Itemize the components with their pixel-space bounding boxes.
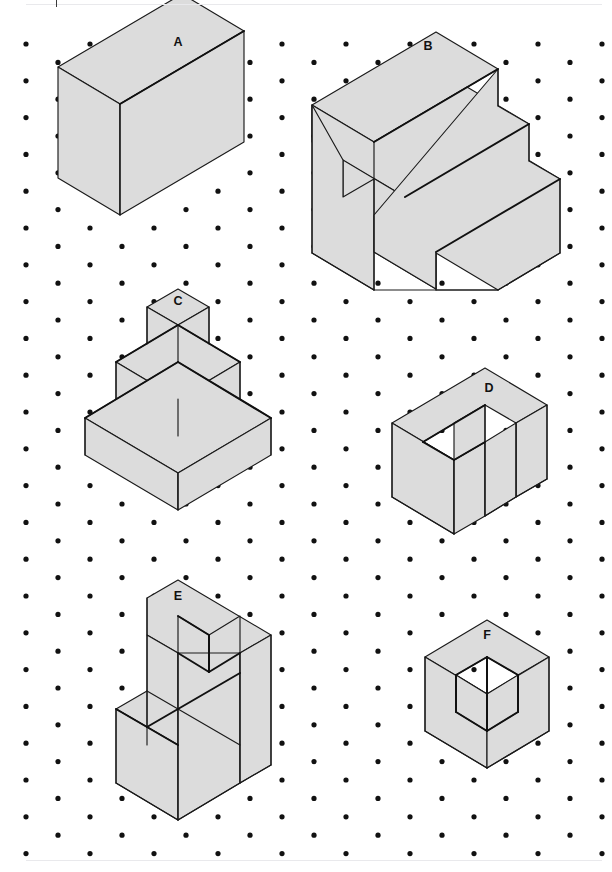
grid-dot bbox=[471, 336, 476, 341]
grid-dot bbox=[375, 465, 380, 470]
grid-dot bbox=[343, 336, 348, 341]
grid-dot bbox=[599, 225, 604, 230]
grid-dot bbox=[343, 741, 348, 746]
grid-dot bbox=[375, 685, 380, 690]
grid-dot bbox=[599, 409, 604, 414]
grid-dot bbox=[87, 851, 92, 856]
grid-dot bbox=[439, 354, 444, 359]
grid-dot bbox=[407, 373, 412, 378]
grid-dot bbox=[151, 520, 156, 525]
grid-dot bbox=[503, 759, 508, 764]
grid-dot bbox=[119, 612, 124, 617]
grid-dot bbox=[247, 317, 252, 322]
grid-dot bbox=[471, 667, 476, 672]
grid-dot bbox=[279, 446, 284, 451]
grid-dot bbox=[599, 336, 604, 341]
grid-dot bbox=[567, 281, 572, 286]
grid-dot bbox=[535, 777, 540, 782]
grid-dot bbox=[439, 759, 444, 764]
grid-dot bbox=[87, 373, 92, 378]
grid-dot bbox=[151, 851, 156, 856]
figure-f[interactable]: F bbox=[425, 620, 549, 768]
grid-dot bbox=[279, 152, 284, 157]
figure-label-f: F bbox=[483, 628, 491, 642]
grid-dot bbox=[599, 373, 604, 378]
figure-e[interactable]: E bbox=[116, 580, 271, 820]
grid-dot bbox=[183, 833, 188, 838]
top-rule-line bbox=[26, 4, 602, 5]
grid-dot bbox=[119, 317, 124, 322]
grid-dot bbox=[567, 575, 572, 580]
grid-dot bbox=[55, 612, 60, 617]
grid-dot bbox=[311, 759, 316, 764]
grid-dot bbox=[23, 851, 28, 856]
grid-dot bbox=[23, 667, 28, 672]
grid-dot bbox=[279, 373, 284, 378]
figure-a[interactable]: A bbox=[58, 0, 244, 215]
grid-dot bbox=[279, 336, 284, 341]
grid-dot bbox=[311, 649, 316, 654]
grid-dot bbox=[535, 115, 540, 120]
grid-dot bbox=[567, 207, 572, 212]
e-right-outer-face bbox=[240, 635, 271, 783]
grid-dot bbox=[279, 557, 284, 562]
grid-dot bbox=[23, 299, 28, 304]
grid-dot bbox=[119, 244, 124, 249]
grid-dot bbox=[183, 575, 188, 580]
grid-dot bbox=[215, 520, 220, 525]
grid-dot bbox=[407, 704, 412, 709]
grid-dot bbox=[55, 207, 60, 212]
grid-dot bbox=[55, 60, 60, 65]
grid-dot bbox=[567, 133, 572, 138]
grid-dot bbox=[599, 115, 604, 120]
grid-dot bbox=[599, 152, 604, 157]
grid-dot bbox=[247, 354, 252, 359]
grid-dot bbox=[599, 814, 604, 819]
grid-dot bbox=[311, 354, 316, 359]
grid-dot bbox=[215, 593, 220, 598]
grid-dot bbox=[23, 446, 28, 451]
grid-dot bbox=[151, 225, 156, 230]
grid-dot bbox=[311, 575, 316, 580]
grid-dot bbox=[311, 538, 316, 543]
grid-dot bbox=[375, 428, 380, 433]
grid-dot bbox=[279, 851, 284, 856]
grid-dot bbox=[311, 612, 316, 617]
isometric-drawing-canvas: ABCDEF bbox=[0, 0, 612, 872]
grid-dot bbox=[87, 667, 92, 672]
grid-dot bbox=[247, 170, 252, 175]
grid-dot bbox=[535, 593, 540, 598]
figure-d[interactable]: D bbox=[392, 368, 547, 534]
grid-dot bbox=[23, 593, 28, 598]
grid-dot bbox=[375, 501, 380, 506]
grid-dot bbox=[87, 741, 92, 746]
grid-dot bbox=[343, 777, 348, 782]
grid-dot bbox=[567, 317, 572, 322]
grid-dot bbox=[23, 557, 28, 562]
grid-dot bbox=[119, 796, 124, 801]
grid-dot bbox=[55, 796, 60, 801]
grid-dot bbox=[23, 630, 28, 635]
grid-dot bbox=[535, 299, 540, 304]
grid-dot bbox=[247, 207, 252, 212]
grid-dot bbox=[375, 722, 380, 727]
grid-dot bbox=[55, 244, 60, 249]
grid-dot bbox=[407, 667, 412, 672]
grid-dot bbox=[343, 630, 348, 635]
grid-dot bbox=[247, 391, 252, 396]
grid-dot bbox=[247, 501, 252, 506]
grid-dot bbox=[375, 60, 380, 65]
figure-b[interactable]: B bbox=[312, 32, 560, 290]
grid-dot bbox=[151, 557, 156, 562]
figure-c[interactable]: C bbox=[85, 289, 271, 510]
grid-dot bbox=[375, 391, 380, 396]
grid-dot bbox=[407, 520, 412, 525]
top-tick-mark bbox=[56, 0, 57, 7]
grid-dot bbox=[55, 501, 60, 506]
grid-dot bbox=[247, 538, 252, 543]
grid-dot bbox=[535, 336, 540, 341]
grid-dot bbox=[279, 189, 284, 194]
grid-dot bbox=[535, 741, 540, 746]
grid-dot bbox=[23, 115, 28, 120]
grid-dot bbox=[567, 796, 572, 801]
